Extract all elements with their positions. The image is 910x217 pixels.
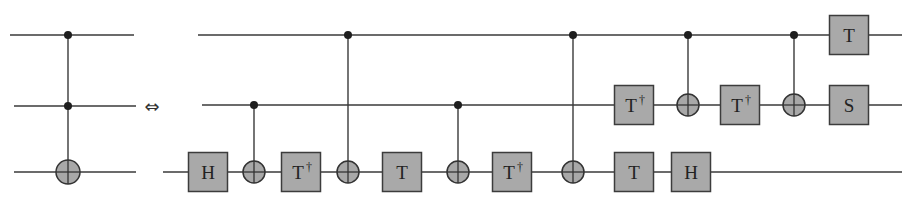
cnot-control-dot-icon: [454, 101, 462, 109]
gate-label: T: [503, 162, 515, 183]
gate-t: T: [615, 153, 654, 192]
cnot-control-dot-icon: [790, 31, 798, 39]
cnot-target-xor-icon: [783, 94, 805, 116]
gate-label: T: [625, 95, 637, 116]
cnot-target-xor-icon: [447, 161, 469, 183]
gate-label: T: [396, 162, 408, 183]
gate-t-dagger: T†: [615, 86, 654, 125]
gate-label: H: [684, 162, 698, 183]
cnot-control-dot-icon: [344, 31, 352, 39]
dagger-superscript: †: [639, 93, 645, 107]
gate-t: T: [830, 16, 869, 55]
gate-t-dagger: T†: [282, 153, 321, 192]
gate-h: H: [189, 153, 228, 192]
control-dot-icon: [64, 31, 72, 39]
gate-label: S: [844, 95, 855, 116]
cnot-target-xor-icon: [243, 161, 265, 183]
dagger-superscript: †: [745, 93, 751, 107]
cnot-target-xor-icon: [337, 161, 359, 183]
cnot-target-xor-icon: [677, 94, 699, 116]
gate-t-dagger: T†: [493, 153, 532, 192]
cnot-control-dot-icon: [569, 31, 577, 39]
control-dot-icon: [64, 102, 72, 110]
gate-label: T: [843, 25, 855, 46]
equivalence-symbol: ⇔: [144, 96, 159, 117]
gate-s: S: [830, 86, 869, 125]
dagger-superscript: †: [517, 160, 523, 174]
quantum-circuit-diagram: ⇔ HT†TT†T†THT†TS: [0, 0, 910, 217]
gate-label: T: [628, 162, 640, 183]
gate-label: H: [201, 162, 215, 183]
toffoli-circuit: [10, 31, 136, 184]
gate-t-dagger: T†: [721, 86, 760, 125]
dagger-superscript: †: [306, 160, 312, 174]
gate-label: T: [731, 95, 743, 116]
toffoli-decomposition-circuit: HT†TT†T†THT†TS: [163, 16, 902, 192]
gate-t: T: [383, 153, 422, 192]
cnot-target-xor-icon: [562, 161, 584, 183]
toffoli-target-xor-icon: [56, 160, 80, 184]
gate-label: T: [292, 162, 304, 183]
gate-h: H: [672, 153, 711, 192]
cnot-control-dot-icon: [684, 31, 692, 39]
cnot-control-dot-icon: [250, 101, 258, 109]
